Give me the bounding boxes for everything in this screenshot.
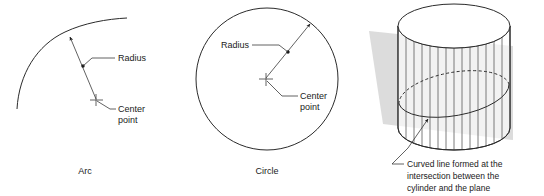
geometry-figure: Radius Center point Arc Radius Center [0,0,544,196]
cylinder-panel: Curved line formed at the intersection b… [369,4,513,193]
circle-caption: Circle [255,166,278,176]
circle-radius-label: Radius [221,40,250,50]
circle-center-label-line1: Center [300,91,327,101]
circle-radius-leader [252,45,288,52]
intersection-caption-line3: cylinder and the plane [407,183,490,193]
arc-curve [17,18,127,109]
figure-canvas: Radius Center point Arc Radius Center [0,0,544,196]
arc-center-marker [90,94,103,106]
arc-radius-line [70,37,96,99]
arc-center-label-line2: point [118,115,138,125]
arc-center-label-line1: Center [118,104,145,114]
circle-center-leader [267,81,298,96]
circle-panel: Radius Center point Circle [196,8,338,176]
arc-panel: Radius Center point Arc [17,18,147,176]
arc-radius-label: Radius [118,53,147,63]
arc-center-leader [97,101,116,109]
intersection-caption-line1: Curved line formed at the [407,159,503,169]
arc-radius-leader [83,58,115,66]
circle-center-label-line2: point [300,102,320,112]
intersection-caption-line2: intersection between the [407,171,499,181]
circle-center-marker [259,73,273,86]
arc-caption: Arc [78,166,92,176]
